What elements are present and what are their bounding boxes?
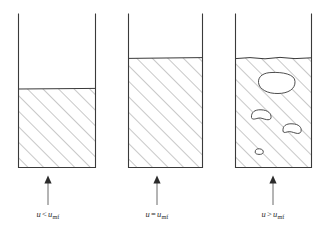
caption-reference-variable-minfluid: u [157, 209, 161, 219]
caption-bubbling-fluidization: u>umf [233, 209, 313, 219]
caption-fixed-bed: u<umf [8, 209, 88, 219]
bed-surface-line-fixed [19, 88, 96, 89]
caption-reference-variable-bubbling: u [273, 209, 277, 219]
caption-subscript-fixed: mf [53, 213, 60, 220]
bubble-tiny [255, 149, 263, 155]
panel-bubbling-fluidization [235, 14, 312, 205]
bubble-small [283, 124, 301, 134]
panel-minimum-fluidization [128, 14, 203, 205]
caption-subscript-minfluid: mf [162, 213, 169, 220]
bed-hatch-fixed [18, 89, 96, 168]
caption-operator-minfluid: = [150, 209, 157, 219]
fluidization-diagram: u<umf u=umf u>umf [0, 0, 324, 233]
bubble-medium [251, 110, 271, 120]
bed-hatch-minfluid [128, 58, 203, 168]
caption-subscript-bubbling: mf [278, 213, 285, 220]
caption-reference-variable-fixed: u [48, 209, 52, 219]
gas-inlet-arrow-fixed [44, 176, 51, 206]
panel-fixed-bed [18, 14, 96, 205]
caption-operator-bubbling: > [266, 209, 273, 219]
caption-minimum-fluidization: u=umf [117, 209, 197, 219]
caption-operator-fixed: < [41, 209, 48, 219]
gas-inlet-arrow-bubbling [269, 176, 276, 206]
bubble-large [258, 72, 295, 93]
diagram-canvas [0, 0, 324, 233]
gas-inlet-arrow-minfluid [153, 176, 160, 206]
